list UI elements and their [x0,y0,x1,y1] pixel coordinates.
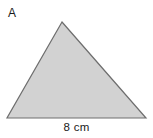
triangle-outline-icon [7,22,146,118]
triangle-shape [0,0,153,138]
geometry-figure-panel: A 8 cm [0,0,153,138]
base-dimension-label: 8 cm [0,120,153,134]
